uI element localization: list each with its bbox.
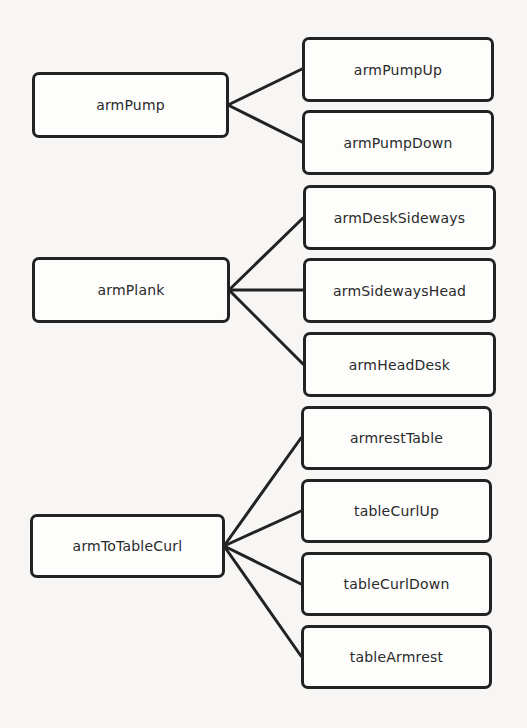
node-armPump: armPump: [32, 72, 229, 138]
node-armPlank: armPlank: [32, 257, 230, 323]
node-label: armSidewaysHead: [333, 283, 466, 299]
node-armToTableCurl: armToTableCurl: [30, 514, 225, 578]
node-armDeskSideways: armDeskSideways: [303, 185, 496, 250]
edge-armPump-armPumpUp: [228, 69, 302, 105]
node-armPumpUp: armPumpUp: [302, 37, 494, 102]
node-label: armPump: [96, 97, 165, 113]
node-label: armToTableCurl: [73, 538, 183, 554]
node-label: armPumpUp: [354, 62, 442, 78]
node-armSidewaysHead: armSidewaysHead: [303, 258, 496, 323]
node-armHeadDesk: armHeadDesk: [303, 332, 496, 397]
node-label: tableCurlDown: [343, 576, 449, 592]
edge-armPlank-armHeadDesk: [229, 290, 303, 364]
edge-armPump-armPumpDown: [228, 105, 302, 142]
node-tableArmrest: tableArmrest: [301, 625, 492, 689]
edge-armPlank-armDeskSideways: [229, 218, 303, 290]
node-armPumpDown: armPumpDown: [302, 110, 494, 175]
node-label: armrestTable: [350, 430, 443, 446]
node-label: armHeadDesk: [349, 357, 450, 373]
node-armrestTable: armrestTable: [301, 406, 492, 470]
edge-armToTableCurl-tableArmrest: [224, 546, 301, 656]
node-label: armPlank: [97, 282, 164, 298]
node-tableCurlDown: tableCurlDown: [301, 552, 492, 616]
node-tableCurlUp: tableCurlUp: [301, 479, 492, 543]
node-label: tableArmrest: [350, 649, 443, 665]
node-label: armDeskSideways: [334, 210, 465, 226]
node-label: tableCurlUp: [354, 503, 439, 519]
node-label: armPumpDown: [343, 135, 452, 151]
tree-diagram: armPump armPumpUp armPumpDown armPlank a…: [0, 0, 527, 728]
